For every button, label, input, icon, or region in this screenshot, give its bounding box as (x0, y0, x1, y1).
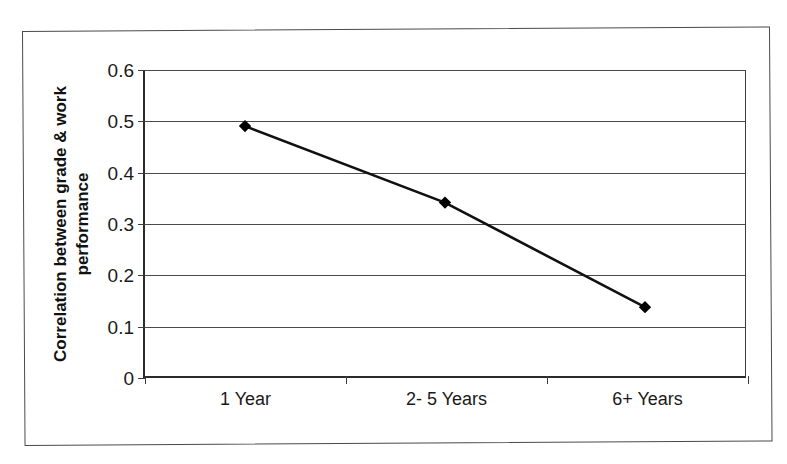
y-tick-mark-0.6 (138, 70, 145, 71)
y-tick-label-0.4: 0.4 (108, 163, 134, 182)
y-tick-label-0: 0 (123, 369, 134, 388)
x-tick-mark-1 (346, 376, 347, 384)
series-line-correlation (245, 126, 645, 307)
x-tick-mark-start (145, 376, 146, 384)
data-point-6-years (639, 301, 651, 313)
plot-area: 0.6 0.5 0.4 0.3 0.2 0.1 0 1 Year 2- 5 Ye… (143, 70, 746, 378)
y-tick-label-0.3: 0.3 (108, 215, 134, 234)
y-tick-mark-0.4 (138, 173, 145, 174)
y-axis-title: Correlation between grade & work perform… (44, 70, 100, 378)
data-point-1-year (239, 120, 251, 132)
y-tick-mark-0.2 (138, 275, 145, 276)
y-axis-title-line-1: Correlation between grade & work (50, 86, 72, 362)
x-tick-label-1-year: 1 Year (220, 390, 271, 408)
y-tick-label-0.2: 0.2 (108, 266, 134, 285)
x-tick-label-6-plus-years: 6+ Years (612, 390, 683, 408)
y-tick-label-0.1: 0.1 (108, 317, 134, 336)
y-tick-mark-0.3 (138, 224, 145, 225)
y-tick-mark-0 (138, 378, 145, 379)
y-tick-label-0.5: 0.5 (108, 112, 134, 131)
x-tick-label-2-5-years: 2- 5 Years (406, 390, 487, 408)
data-point-2-5-years (439, 196, 451, 208)
x-tick-mark-end (748, 376, 749, 384)
series-markers (239, 120, 651, 313)
y-axis-title-line-2: performance (72, 173, 94, 276)
y-tick-label-0.6: 0.6 (108, 61, 134, 80)
y-tick-mark-0.1 (138, 327, 145, 328)
line-chart: Correlation between grade & work perform… (0, 0, 787, 464)
x-tick-mark-2 (547, 376, 548, 384)
data-series-layer (145, 70, 745, 376)
y-tick-mark-0.5 (138, 121, 145, 122)
